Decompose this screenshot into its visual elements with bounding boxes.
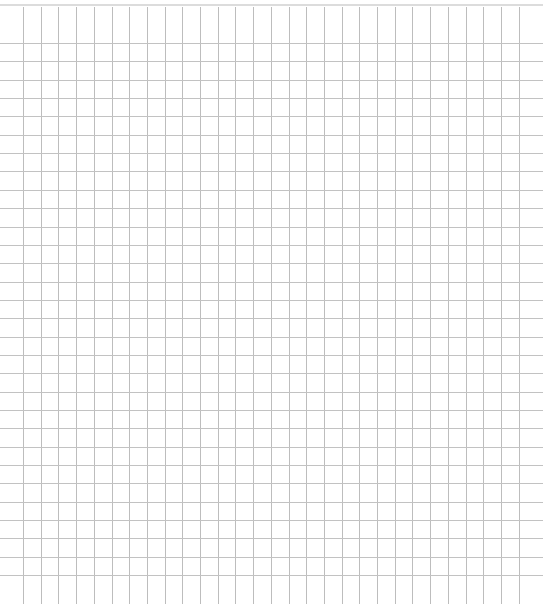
grid-horizontal-line — [0, 171, 543, 172]
grid-horizontal-line — [0, 245, 543, 246]
grid-vertical-line — [94, 7, 95, 604]
grid-vertical-line — [235, 7, 236, 604]
grid-horizontal-line — [0, 61, 543, 62]
grid-horizontal-line — [0, 538, 543, 539]
grid-vertical-line — [519, 7, 520, 604]
grid-vertical-line — [412, 7, 413, 604]
grid-vertical-line — [359, 7, 360, 604]
grid-vertical-line — [182, 7, 183, 604]
grid-paper-sheet — [0, 0, 543, 606]
grid-horizontal-line — [0, 557, 543, 558]
grid-lines — [0, 0, 543, 606]
grid-vertical-line — [129, 7, 130, 604]
grid-vertical-line — [58, 7, 59, 604]
grid-vertical-line — [501, 7, 502, 604]
grid-horizontal-line — [0, 43, 543, 44]
grid-horizontal-line — [0, 300, 543, 301]
grid-vertical-line — [165, 7, 166, 604]
grid-horizontal-line — [0, 465, 543, 466]
grid-horizontal-line — [0, 410, 543, 411]
grid-vertical-line — [271, 7, 272, 604]
grid-vertical-line — [377, 7, 378, 604]
grid-horizontal-line — [0, 208, 543, 209]
grid-vertical-line — [448, 7, 449, 604]
grid-vertical-line — [112, 7, 113, 604]
grid-horizontal-line — [0, 80, 543, 81]
grid-horizontal-line — [0, 483, 543, 484]
grid-horizontal-line — [0, 98, 543, 99]
grid-vertical-line — [76, 7, 77, 604]
grid-vertical-line — [395, 7, 396, 604]
grid-horizontal-line — [0, 135, 543, 136]
grid-vertical-line — [466, 7, 467, 604]
grid-vertical-line — [23, 7, 24, 604]
grid-horizontal-line — [0, 520, 543, 521]
grid-vertical-line — [41, 7, 42, 604]
grid-vertical-line — [289, 7, 290, 604]
grid-horizontal-line — [0, 428, 543, 429]
grid-vertical-line — [200, 7, 201, 604]
grid-horizontal-line — [0, 355, 543, 356]
grid-horizontal-line — [0, 502, 543, 503]
grid-vertical-line — [342, 7, 343, 604]
grid-vertical-line — [483, 7, 484, 604]
grid-horizontal-line — [0, 263, 543, 264]
grid-horizontal-line — [0, 337, 543, 338]
grid-vertical-line — [253, 7, 254, 604]
grid-horizontal-line — [0, 392, 543, 393]
grid-vertical-line — [430, 7, 431, 604]
grid-vertical-line — [218, 7, 219, 604]
grid-horizontal-line — [0, 373, 543, 374]
grid-horizontal-line — [0, 153, 543, 154]
grid-horizontal-line — [0, 116, 543, 117]
grid-horizontal-line — [0, 190, 543, 191]
grid-horizontal-line — [0, 318, 543, 319]
grid-horizontal-line — [0, 575, 543, 576]
grid-vertical-line — [306, 7, 307, 604]
grid-horizontal-line — [0, 447, 543, 448]
grid-vertical-line — [324, 7, 325, 604]
grid-vertical-line — [147, 7, 148, 604]
grid-horizontal-line — [0, 227, 543, 228]
grid-horizontal-line — [0, 282, 543, 283]
